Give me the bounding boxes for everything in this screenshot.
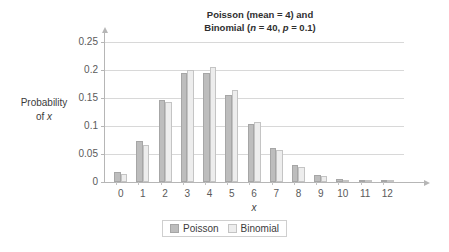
x-axis-tick-label: 1: [131, 188, 155, 199]
chart-title-n-value: = 40,: [256, 22, 283, 33]
bar-binomial-x8: [298, 167, 305, 182]
x-axis-tick-mark: [383, 182, 384, 185]
legend-item-binomial: Binomial: [228, 223, 279, 234]
y-axis-tick-label: 0.25: [38, 36, 98, 47]
x-axis-tick-mark: [161, 182, 162, 185]
bar-binomial-x9: [321, 176, 328, 182]
legend-label-binomial: Binomial: [241, 223, 279, 234]
bar-binomial-x4: [210, 67, 217, 182]
x-axis-tick-label: 6: [242, 188, 266, 199]
x-axis-arrow-icon: [424, 180, 430, 186]
x-axis-tick-label: 11: [353, 188, 377, 199]
x-axis-tick-label: 4: [198, 188, 222, 199]
bar-binomial-x11: [365, 180, 372, 182]
bar-group: [181, 42, 194, 182]
chart-title-line-1: Poisson (mean = 4) and: [120, 8, 400, 21]
legend-label-poisson: Poisson: [183, 223, 219, 234]
x-axis-tick-mark: [316, 182, 317, 185]
x-axis-tick-label: 12: [375, 188, 399, 199]
bar-group: [292, 42, 305, 182]
x-axis-tick-label: 8: [286, 188, 310, 199]
x-axis-tick-label: 9: [309, 188, 333, 199]
x-axis-tick-label: 2: [153, 188, 177, 199]
bar-group: [381, 42, 394, 182]
chart-title-p-value: = 0.1): [289, 22, 316, 33]
bar-group: [114, 42, 127, 182]
x-axis-tick-label: 3: [175, 188, 199, 199]
bar-binomial-x12: [387, 180, 394, 182]
x-axis-tick-mark: [338, 182, 339, 185]
bar-group: [336, 42, 349, 182]
bar-group: [248, 42, 261, 182]
bar-group: [359, 42, 372, 182]
chart-title-binomial-text: Binomial (: [204, 22, 250, 33]
legend-swatch-poisson-icon: [170, 224, 179, 233]
bar-binomial-x7: [276, 150, 283, 182]
y-axis-tick-label: 0.2: [38, 64, 98, 75]
bar-group: [270, 42, 283, 182]
chart-title-line-2: Binomial (n = 40, p = 0.1): [120, 21, 400, 34]
x-axis-tick-mark: [294, 182, 295, 185]
x-axis-tick-mark: [138, 182, 139, 185]
bar-group: [314, 42, 327, 182]
plot-area: 00.050.10.150.20.25 0123456789101112: [104, 42, 404, 182]
x-axis-tick-label: 0: [109, 188, 133, 199]
chart-figure: Poisson (mean = 4) and Binomial (n = 40,…: [0, 0, 449, 252]
x-axis-tick-mark: [361, 182, 362, 185]
bar-group: [225, 42, 238, 182]
legend: Poisson Binomial: [0, 220, 449, 237]
x-axis-tick-label: 7: [264, 188, 288, 199]
bar-binomial-x5: [232, 90, 239, 182]
y-axis-line: [104, 32, 105, 182]
bar-binomial-x10: [343, 180, 350, 182]
bar-binomial-x2: [165, 102, 172, 182]
y-axis-tick-label: 0: [38, 176, 98, 187]
legend-item-poisson: Poisson: [170, 223, 219, 234]
chart-title: Poisson (mean = 4) and Binomial (n = 40,…: [120, 8, 400, 34]
y-axis-arrow-icon: [102, 27, 108, 33]
y-axis-tick-label: 0.15: [38, 92, 98, 103]
legend-box: Poisson Binomial: [162, 220, 287, 237]
bar-binomial-x6: [254, 122, 261, 182]
bar-binomial-x3: [187, 70, 194, 182]
bar-group: [136, 42, 149, 182]
x-axis-tick-label: 10: [331, 188, 355, 199]
y-axis-tick-label: 0.05: [38, 148, 98, 159]
x-axis-tick-mark: [272, 182, 273, 185]
bar-binomial-x0: [121, 174, 128, 182]
x-axis-tick-mark: [183, 182, 184, 185]
x-axis-line: [104, 182, 424, 183]
x-axis-tick-mark: [249, 182, 250, 185]
y-axis-tick-label: 0.1: [38, 120, 98, 131]
x-axis-title: x: [104, 202, 404, 213]
x-axis-tick-label: 5: [220, 188, 244, 199]
legend-swatch-binomial-icon: [228, 224, 237, 233]
x-axis-tick-mark: [227, 182, 228, 185]
x-axis-tick-mark: [116, 182, 117, 185]
bar-group: [203, 42, 216, 182]
bar-group: [159, 42, 172, 182]
x-axis-tick-mark: [205, 182, 206, 185]
bar-binomial-x1: [143, 145, 150, 182]
